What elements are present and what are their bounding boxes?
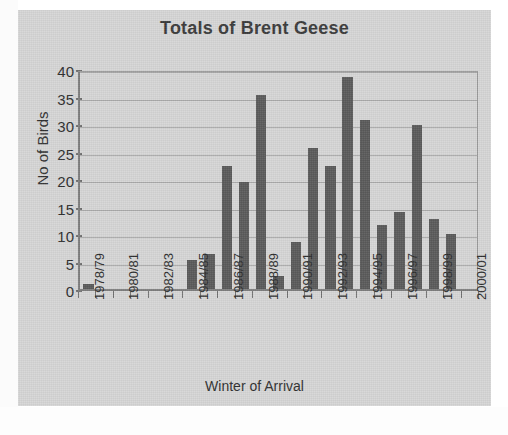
x-axis-tick-mark [461,291,462,298]
bar [325,166,335,289]
x-axis-title: Winter of Arrival [18,378,491,394]
chart-title: Totals of Brent Geese [18,18,491,39]
x-axis-tick-mark [148,291,149,298]
x-axis-tick-label: 1978/79 [92,253,107,300]
x-axis-tick-mark [426,291,427,298]
y-axis-tick-label: 0 [40,283,74,300]
x-axis-tick-label: 2000/01 [474,253,489,300]
x-axis-tick-mark [356,291,357,298]
x-axis-tick-label: 1986/87 [231,253,246,300]
y-axis-tick-label: 15 [40,200,74,217]
y-axis-tick-label: 25 [40,145,74,162]
y-axis-tick-labels: 4035302520151050 [30,71,74,291]
bar [394,212,404,289]
bar [256,95,266,289]
x-axis-tick-labels: 1978/791980/811982/831984/851986/871988/… [78,300,478,378]
x-axis-tick-mark [113,291,114,298]
y-axis-tick-label: 10 [40,228,74,245]
x-axis-tick-label: 1984/85 [196,253,211,300]
bar [360,120,370,289]
y-axis-tick-label: 40 [40,63,74,80]
y-axis-tick-label: 20 [40,173,74,190]
x-axis-tick-label: 1998/99 [440,253,455,300]
x-axis-tick-label: 1994/95 [370,253,385,300]
x-axis-tick-mark [287,291,288,298]
x-axis-tick-label: 1990/91 [300,253,315,300]
x-axis-tick-label: 1980/81 [126,253,141,300]
x-axis-tick-mark [252,291,253,298]
x-axis-tick-mark [78,291,79,298]
scan-margin-bottom [0,407,508,435]
x-axis-tick-label: 1992/93 [335,253,350,300]
y-axis-tick-label: 30 [40,118,74,135]
x-axis-tick-label: 1982/83 [161,253,176,300]
x-axis-tick-label: 1988/89 [266,253,281,300]
scan-margin-left [0,0,18,435]
x-axis-tick-label: 1996/97 [405,253,420,300]
bar [429,219,439,289]
x-axis-tick-mark [182,291,183,298]
y-axis-tick-label: 5 [40,255,74,272]
page-canvas: Totals of Brent Geese No of Birds 403530… [0,0,508,435]
x-axis-tick-mark [321,291,322,298]
x-axis-tick-mark [217,291,218,298]
y-axis-tick-label: 35 [40,90,74,107]
bar-chart: Totals of Brent Geese No of Birds 403530… [18,10,491,406]
x-axis-tick-mark [391,291,392,298]
